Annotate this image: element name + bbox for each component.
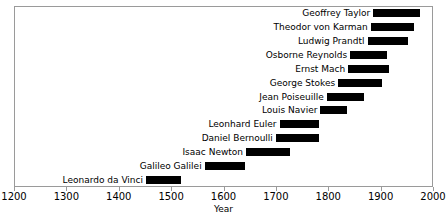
x-tick-label: 1900 [368,191,393,202]
timeline-bar [146,176,181,184]
x-tick-label: 1600 [211,191,236,202]
bar-label: Ludwig Prandtl [298,36,365,45]
x-tick-label: 2000 [420,191,445,202]
bar-label: Daniel Bernoulli [202,134,273,143]
timeline-bar [320,106,347,114]
timeline-bar [338,79,382,87]
plot-area [14,6,433,187]
timeline-chart-figure: Geoffrey TaylorTheodor von KarmanLudwig … [0,0,447,219]
x-tick-label: 1300 [54,191,79,202]
bar-label: Osborne Reynolds [266,50,347,59]
timeline-bar [327,93,365,101]
timeline-bar [280,120,320,128]
bar-label: Jean Poiseuille [259,92,323,101]
timeline-bar [246,148,290,156]
bar-label: Theodor von Karman [273,22,367,31]
timeline-bar [373,9,420,17]
bar-label: Ernst Mach [295,64,345,73]
bar-label: Galileo Galilei [140,162,202,171]
bar-label: Leonhard Euler [208,120,276,129]
timeline-bar [276,134,319,142]
bar-label: Louis Navier [262,106,317,115]
timeline-bar [205,162,246,170]
x-tick-label: 1400 [106,191,131,202]
x-tick-label: 1700 [263,191,288,202]
bar-label: Leonardo da Vinci [63,176,143,185]
bar-label: George Stokes [270,78,336,87]
x-tick-label: 1200 [1,191,26,202]
bar-label: Geoffrey Taylor [302,8,370,17]
timeline-bar [350,51,387,59]
timeline-bar [348,65,389,73]
timeline-bar [368,37,409,45]
x-axis-title: Year [0,204,447,214]
x-tick-label: 1500 [158,191,183,202]
x-tick-label: 1800 [316,191,341,202]
bar-label: Isaac Newton [182,148,243,157]
timeline-bar [371,23,414,31]
